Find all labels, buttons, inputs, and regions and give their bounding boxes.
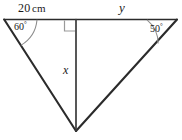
label-side-y: y (119, 1, 125, 14)
segment-right-hypotenuse (76, 20, 177, 132)
label-side-x: x (63, 64, 68, 76)
label-side-20cm: 20cm (18, 2, 46, 14)
label-side-20cm-value: 20 (18, 1, 30, 15)
label-angle-60-degree: ° (24, 20, 27, 28)
label-angle-60-value: 60 (14, 21, 24, 32)
label-angle-60: 60° (14, 21, 27, 32)
geometry-canvas (0, 0, 182, 140)
label-side-20cm-unit: cm (32, 2, 46, 14)
label-angle-50-value: 50 (150, 23, 160, 34)
label-angle-50-degree: ° (160, 22, 163, 30)
geometry-diagram: 20cm y x 60° 50° (0, 0, 182, 140)
label-angle-50: 50° (150, 23, 163, 34)
right-angle-marker-icon (65, 21, 76, 32)
